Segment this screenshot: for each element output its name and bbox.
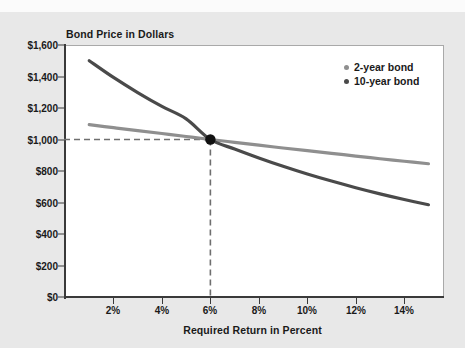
bond-price-chart-figure: Bond Price in Dollars $1,600 $1,400 $1,2…	[0, 0, 465, 348]
y-tick-mark	[58, 108, 64, 109]
legend: 2-year bond 10-year bond	[344, 60, 419, 88]
y-tick-label: $1,000	[6, 134, 58, 145]
y-tick-mark	[58, 139, 64, 140]
y-tick-label: $200	[6, 260, 58, 271]
legend-label: 2-year bond	[354, 61, 414, 73]
y-tick-label: $800	[6, 166, 58, 177]
x-tick-mark	[113, 298, 114, 304]
y-axis-line	[64, 44, 66, 299]
x-axis-title: Required Return in Percent	[0, 324, 465, 336]
y-tick-label: $0	[6, 292, 58, 303]
y-tick-mark	[58, 45, 64, 46]
legend-marker-dot-icon	[344, 79, 349, 84]
x-tick-mark	[162, 298, 163, 304]
x-tick-label: 12%	[346, 305, 366, 316]
y-tick-label: $1,200	[6, 103, 58, 114]
y-tick-label: $400	[6, 229, 58, 240]
x-tick-mark	[210, 298, 211, 304]
legend-item-10-year-bond: 10-year bond	[344, 74, 419, 88]
y-tick-label: $1,400	[6, 71, 58, 82]
y-tick-mark	[58, 202, 64, 203]
y-tick-mark	[58, 265, 64, 266]
legend-item-2-year-bond: 2-year bond	[344, 60, 419, 74]
y-axis-labels: $1,600 $1,400 $1,200 $1,000 $800 $600 $4…	[0, 0, 58, 348]
y-tick-label: $1,600	[6, 40, 58, 51]
x-tick-label: 10%	[297, 305, 317, 316]
x-tick-mark	[307, 298, 308, 304]
legend-label: 10-year bond	[354, 75, 419, 87]
x-tick-label: 8%	[252, 305, 266, 316]
y-tick-label: $600	[6, 197, 58, 208]
page-top-margin-strip	[0, 0, 465, 12]
x-tick-mark	[356, 298, 357, 304]
x-tick-label: 14%	[394, 305, 414, 316]
x-tick-label: 2%	[106, 305, 120, 316]
y-tick-mark	[58, 297, 64, 298]
x-tick-label: 6%	[203, 305, 217, 316]
x-axis-line	[64, 296, 444, 298]
x-tick-mark	[259, 298, 260, 304]
legend-marker-dot-icon	[344, 65, 349, 70]
y-tick-mark	[58, 234, 64, 235]
chart-title: Bond Price in Dollars	[66, 28, 174, 40]
y-tick-mark	[58, 171, 64, 172]
x-axis-title-text: Required Return in Percent	[183, 324, 322, 336]
y-tick-mark	[58, 76, 64, 77]
x-tick-mark	[404, 298, 405, 304]
x-tick-label: 4%	[155, 305, 169, 316]
